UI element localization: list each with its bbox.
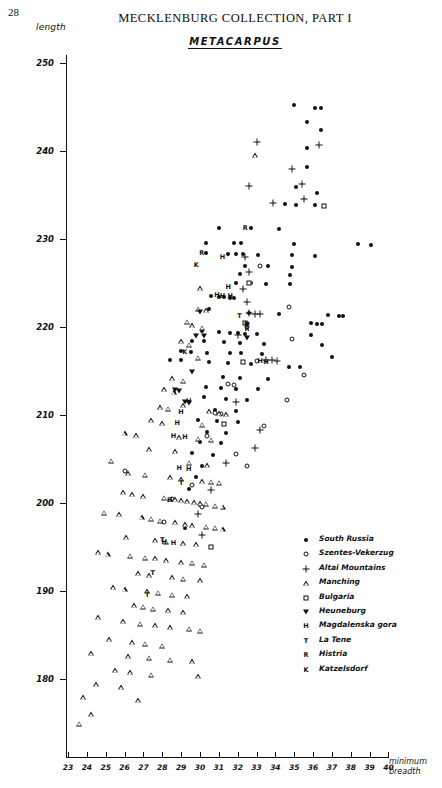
- data-point: [95, 615, 101, 620]
- marker-dot: [305, 146, 309, 150]
- marker-circle: [284, 398, 289, 403]
- marker-triangle: [167, 657, 173, 662]
- data-point: [203, 501, 209, 506]
- marker-triangle: [197, 628, 203, 633]
- data-point: [152, 537, 158, 542]
- marker-letter-h: H: [303, 623, 308, 630]
- marker-plus: [208, 486, 215, 493]
- data-point: [148, 672, 154, 677]
- marker-dot: [238, 376, 242, 380]
- data-point: [140, 604, 146, 609]
- marker-triangle: [135, 698, 141, 703]
- marker-triangle: [106, 637, 112, 642]
- marker-triangle: [135, 571, 141, 576]
- data-point: H: [167, 497, 172, 504]
- data-point: [264, 282, 268, 286]
- marker-circle: [286, 304, 291, 309]
- data-point: [251, 445, 258, 452]
- marker-dot: [234, 409, 238, 413]
- data-point: [224, 431, 228, 435]
- data-point: [193, 542, 199, 547]
- marker-square: [322, 203, 327, 208]
- marker-dot: [239, 351, 243, 355]
- data-point: [159, 643, 165, 648]
- legend-label: Histria: [319, 648, 347, 660]
- marker-dot: [255, 332, 259, 336]
- marker-dot: [256, 253, 260, 257]
- marker-triangle: [148, 516, 154, 521]
- marker-letter-h: H: [186, 465, 191, 472]
- data-point: T: [145, 592, 149, 599]
- data-point: H: [220, 253, 225, 260]
- data-point: [208, 479, 214, 484]
- marker-tridown: [244, 335, 250, 340]
- marker-dot: [288, 282, 292, 286]
- data-point: [197, 310, 203, 315]
- data-point: [179, 358, 183, 362]
- data-point: [172, 520, 178, 525]
- legend-label: Magdalenska gora: [319, 619, 397, 631]
- marker-triangle: [169, 376, 175, 381]
- data-point: [127, 553, 133, 558]
- data-point: [178, 339, 184, 344]
- marker-dot: [249, 226, 253, 230]
- marker-circle: [301, 372, 306, 377]
- marker-dot: [290, 253, 294, 257]
- data-point: [199, 422, 205, 427]
- data-point: H: [220, 293, 225, 300]
- marker-letter-h: H: [171, 433, 176, 440]
- marker-triangle: [148, 418, 154, 423]
- marker-triangle: [165, 406, 171, 411]
- marker-triangle: [182, 522, 188, 527]
- data-point: [184, 499, 190, 504]
- marker-dot: [294, 203, 298, 207]
- data-point: [208, 437, 214, 442]
- data-point: [189, 323, 195, 328]
- marker-triangle: [140, 493, 146, 498]
- scatter-plot-area: HHHHHHHHHHHHHHHHHTTTTTRRRRKK: [0, 0, 442, 788]
- marker-triangle: [129, 640, 135, 645]
- data-point: [122, 431, 128, 436]
- marker-letter-h: H: [178, 409, 183, 416]
- marker-letter-h: H: [227, 293, 232, 300]
- data-point: [234, 281, 238, 285]
- data-point: [226, 382, 231, 387]
- data-point: [322, 203, 327, 208]
- data-point: R: [245, 326, 250, 333]
- data-point: [253, 139, 260, 146]
- data-point: [186, 342, 192, 347]
- marker-triangle: [189, 560, 195, 565]
- marker-plus: [240, 286, 247, 293]
- data-point: [283, 202, 287, 206]
- marker-plus: [232, 398, 239, 405]
- marker-plus: [257, 426, 264, 433]
- marker-letter-t: T: [237, 312, 241, 319]
- data-point: [266, 264, 270, 268]
- legend-symbol: [304, 552, 309, 557]
- data-point: [157, 405, 163, 410]
- data-point: [105, 552, 111, 557]
- marker-triangle: [203, 308, 209, 313]
- data-point: [194, 475, 198, 479]
- marker-dot: [207, 360, 211, 364]
- data-point: [108, 458, 114, 463]
- marker-circle: [190, 483, 195, 488]
- data-point: [224, 397, 228, 401]
- data-point: [290, 265, 294, 269]
- marker-triangle: [172, 449, 178, 454]
- marker-dot: [313, 254, 317, 258]
- data-point: [246, 281, 251, 286]
- data-point: [238, 341, 242, 345]
- marker-triangle: [146, 447, 152, 452]
- marker-plus: [253, 139, 260, 146]
- marker-triangle: [157, 405, 163, 410]
- data-point: [204, 463, 210, 468]
- data-point: [207, 360, 211, 364]
- data-point: [209, 294, 213, 298]
- marker-dot: [315, 191, 319, 195]
- marker-letter-r: R: [243, 224, 248, 231]
- marker-dot: [277, 227, 281, 231]
- marker-triangle: [122, 431, 128, 436]
- data-point: [135, 571, 141, 576]
- marker-triangle: [178, 339, 184, 344]
